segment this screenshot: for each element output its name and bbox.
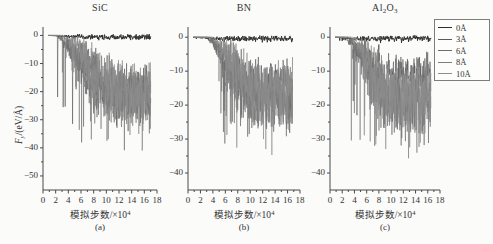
legend-line-icon <box>438 73 452 74</box>
legend-item[interactable]: 6Å <box>435 45 489 57</box>
data-trace <box>336 37 431 158</box>
legend-label: 6Å <box>456 47 466 56</box>
legend: 0Å3Å6Å8Å10Å <box>434 19 490 81</box>
legend-item[interactable]: 0Å <box>435 22 489 34</box>
legend-line-icon <box>438 62 452 63</box>
figure-root: SiC0−10−20−30−40−50024681012141618模拟步数/×… <box>0 0 493 244</box>
legend-item[interactable]: 3Å <box>435 34 489 46</box>
panel-title: Al2O3 <box>330 2 440 15</box>
legend-label: 3Å <box>456 35 466 44</box>
x-axis-label-text: 模拟步数/×10 <box>355 210 413 220</box>
data-trace <box>336 37 431 124</box>
legend-line-icon <box>438 27 452 28</box>
x-axis-label-exponent: 4 <box>412 209 415 216</box>
x-axis-label: 模拟步数/×104 <box>330 207 440 221</box>
legend-label: 0Å <box>456 24 466 33</box>
chart-panel-3: Al2O30−10−20−30−40024681012141618模拟步数/×1… <box>0 0 493 244</box>
x-tick-label: 18 <box>431 195 449 205</box>
panel-tag: (c) <box>330 222 440 232</box>
legend-item[interactable]: 10Å <box>435 68 489 80</box>
legend-line-icon <box>438 50 452 51</box>
legend-label: 8Å <box>456 58 466 67</box>
data-trace <box>336 37 431 145</box>
y-tick-label: 0 <box>292 31 325 41</box>
data-trace <box>336 35 431 43</box>
axis-spines <box>330 27 440 190</box>
data-trace <box>336 37 431 149</box>
y-tick-label: −30 <box>292 133 325 143</box>
legend-line-icon <box>438 39 452 40</box>
y-tick-label: −10 <box>292 65 325 75</box>
y-tick-label: −20 <box>292 99 325 109</box>
legend-item[interactable]: 8Å <box>435 57 489 69</box>
legend-label: 10Å <box>456 70 471 79</box>
y-tick-label: −40 <box>292 167 325 177</box>
